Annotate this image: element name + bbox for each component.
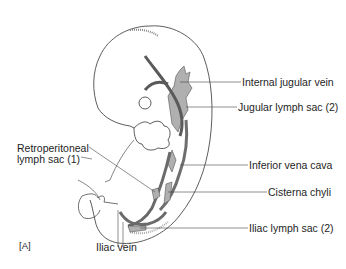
label-inferior-vena-cava: Inferior vena cava — [249, 160, 332, 171]
cisterna-chyli — [164, 182, 172, 204]
eye — [139, 97, 151, 109]
iliac-lymph-sac — [128, 226, 146, 232]
label-cisterna-chyli: Cisterna chyli — [268, 187, 331, 198]
label-iliac-vein: Iliac vein — [96, 242, 137, 253]
jugular-lymph-sac — [168, 66, 192, 132]
limb-bud — [78, 194, 118, 219]
heart-bulge — [134, 121, 170, 150]
label-internal-jugular-vein: Internal jugular vein — [242, 77, 334, 88]
label-iliac-lymph-sac: Iliac lymph sac (2) — [249, 223, 334, 234]
label-jugular-lymph-sac: Jugular lymph sac (2) — [238, 102, 338, 113]
label-retroperitoneal-line2: lymph sac (1) — [17, 154, 80, 165]
panel-label: [A] — [19, 240, 31, 251]
